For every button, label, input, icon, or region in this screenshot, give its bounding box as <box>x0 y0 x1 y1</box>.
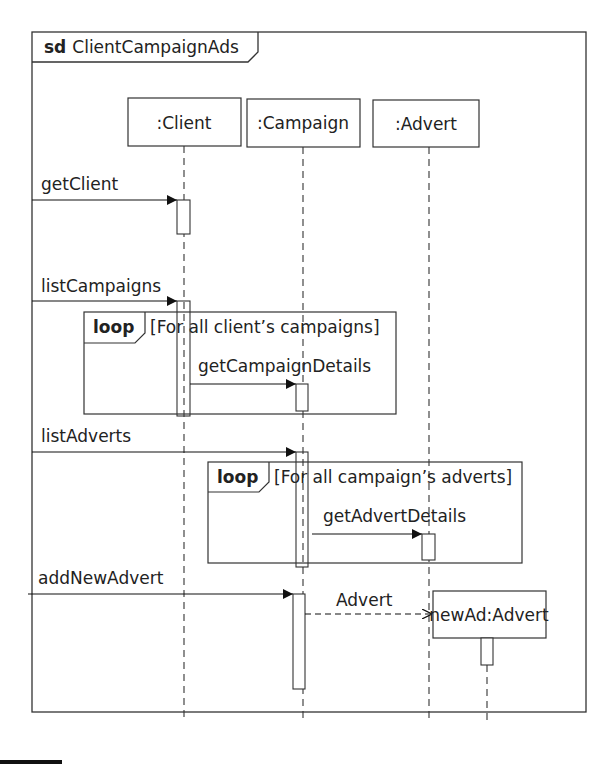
activation-client-2 <box>177 301 190 416</box>
frame-keyword: sd <box>44 37 66 57</box>
activation-advert-1 <box>422 534 435 560</box>
message-listcampaigns: listCampaigns <box>32 276 177 301</box>
message-listadverts: listAdverts <box>32 426 296 452</box>
activation-campaign-3 <box>293 594 305 689</box>
message-addnewadvert: addNewAdvert <box>28 568 305 689</box>
loop-guard-2: [For all campaign’s adverts] <box>274 467 512 487</box>
activation-campaign-2 <box>296 452 308 567</box>
message-getcampaigndetails: getCampaignDetails <box>190 356 371 411</box>
message-addnewadvert-label: addNewAdvert <box>38 568 164 588</box>
lifeline-newad-label: newAd:Advert <box>429 605 549 625</box>
loop-operator-1: loop <box>93 317 134 337</box>
message-getadvertdetails-label: getAdvertDetails <box>323 506 466 526</box>
loop-operator-2: loop <box>217 467 258 487</box>
message-getclient-label: getClient <box>41 174 118 194</box>
message-listcampaigns-label: listCampaigns <box>41 276 161 296</box>
frame-name: ClientCampaignAds <box>72 37 239 57</box>
activation-newad <box>481 638 493 665</box>
page-edge-mark <box>0 760 62 764</box>
lifeline-client-label: :Client <box>157 113 212 133</box>
sequence-diagram: sdClientCampaignAds :Client :Campaign :A… <box>0 0 615 764</box>
activation-campaign-1 <box>296 384 308 411</box>
lifeline-campaign-label: :Campaign <box>257 113 349 133</box>
lifeline-advert-label: :Advert <box>395 114 457 134</box>
message-listadverts-label: listAdverts <box>41 426 131 446</box>
message-getcampaigndetails-label: getCampaignDetails <box>198 356 371 376</box>
lifeline-newad: newAd:Advert <box>429 591 549 722</box>
frame-title: sdClientCampaignAds <box>44 37 239 57</box>
message-getclient: getClient <box>32 174 190 234</box>
message-create-advert: Advert <box>305 590 432 614</box>
activation-client-1 <box>177 200 190 234</box>
message-create-advert-label: Advert <box>336 590 393 610</box>
message-getadvertdetails: getAdvertDetails <box>312 506 466 560</box>
